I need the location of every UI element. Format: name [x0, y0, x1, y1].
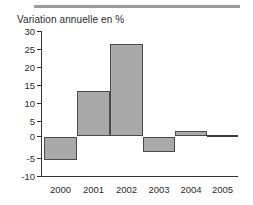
y-axis-tick: [37, 49, 42, 50]
y-axis-tick: [37, 31, 42, 32]
bar-2001: [77, 91, 110, 136]
y-axis-line: [41, 31, 42, 177]
bar-2003: [143, 137, 175, 152]
y-axis-label-15: 15: [24, 81, 35, 90]
x-axis-label-2001: 2001: [77, 185, 110, 195]
y-axis-tick: [37, 103, 42, 104]
y-axis-label-5: 5: [30, 117, 35, 126]
y-axis-tick: [37, 158, 42, 159]
x-axis-line: [41, 176, 238, 177]
y-axis-label-0: 0: [30, 132, 35, 141]
chart-title: Variation annuelle en %: [17, 14, 124, 26]
y-axis-tick: [37, 176, 42, 177]
top-divider-rule: [34, 5, 240, 8]
y-axis-tick: [37, 121, 42, 122]
chart-figure: Variation annuelle en % 30 25 20 15 10 5…: [0, 0, 253, 205]
x-axis-label-2004: 2004: [175, 185, 207, 195]
y-axis-label-30: 30: [24, 27, 35, 36]
bar-2005: [207, 135, 238, 137]
bar-2000: [44, 137, 77, 160]
y-axis-label-25: 25: [24, 45, 35, 54]
y-axis-tick: [37, 136, 42, 137]
y-axis-label-20: 20: [24, 63, 35, 72]
x-axis-label-2005: 2005: [207, 185, 238, 195]
bar-2002: [110, 44, 143, 136]
x-axis-label-2000: 2000: [44, 185, 77, 195]
y-axis-label-neg10: -10: [21, 172, 35, 181]
y-axis-label-10: 10: [24, 99, 35, 108]
x-axis-label-2003: 2003: [143, 185, 175, 195]
x-axis-label-2002: 2002: [110, 185, 143, 195]
y-axis-tick: [37, 85, 42, 86]
y-axis-label-neg5: -5: [27, 154, 35, 163]
y-axis-tick: [37, 67, 42, 68]
bar-2004: [175, 131, 207, 136]
